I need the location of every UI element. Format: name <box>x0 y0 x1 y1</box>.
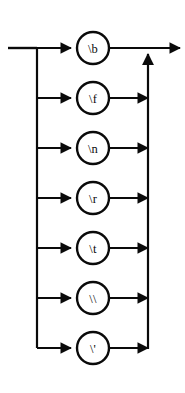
railroad-diagram: \b \f \n \r \t \\ \' <box>0 0 185 393</box>
node-label-esc-newline: \n <box>88 142 99 156</box>
node-group-2[interactable]: \f <box>77 82 109 114</box>
node-label-esc-backspace: \b <box>88 42 98 56</box>
node-group-7[interactable]: \' <box>77 332 109 364</box>
node-label-esc-backslash: \\ <box>89 292 97 306</box>
railroad-canvas: \b \f \n \r \t \\ \' <box>0 0 185 393</box>
node-label-esc-tab: \t <box>89 242 97 256</box>
branch-stubs-group <box>37 48 71 348</box>
node-group-4[interactable]: \r <box>77 182 109 214</box>
node-label-esc-return: \r <box>89 192 98 206</box>
node-group-5[interactable]: \t <box>77 232 109 264</box>
node-group-1[interactable]: \b <box>77 32 109 64</box>
node-group-3[interactable]: \n <box>77 132 109 164</box>
node-label-esc-formfeed: \f <box>89 92 98 106</box>
node-label-esc-quote: \' <box>90 342 96 356</box>
merge-stubs-group <box>109 48 180 348</box>
node-group-6[interactable]: \\ <box>77 282 109 314</box>
